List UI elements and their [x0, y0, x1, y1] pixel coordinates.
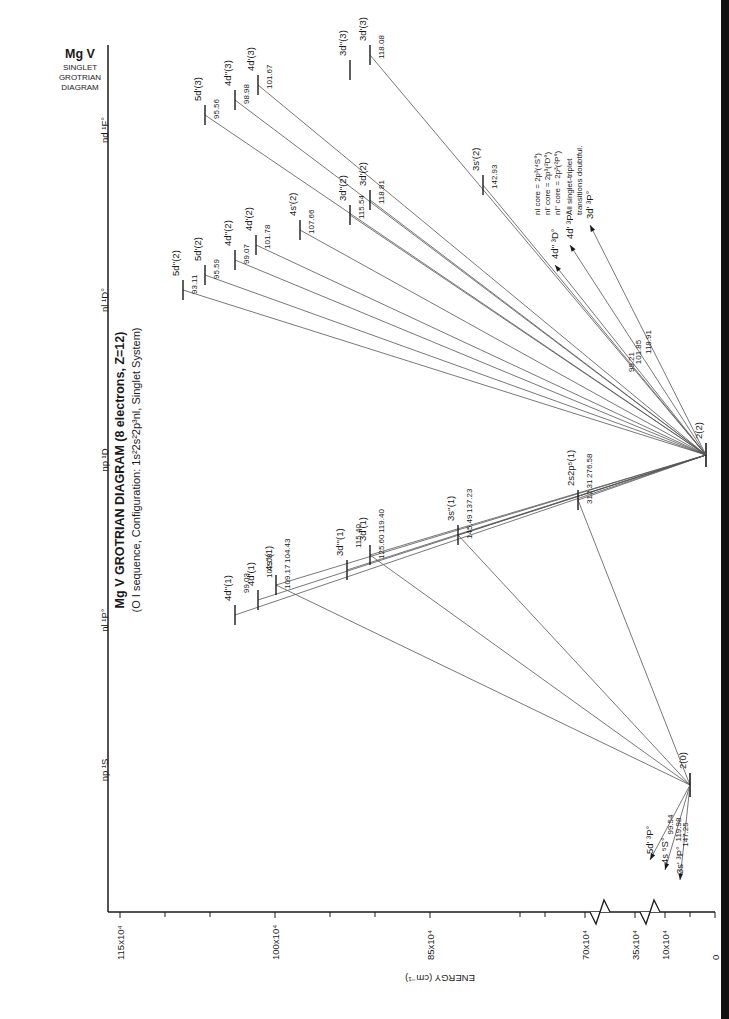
note-core3: nl'' core = 2p³(²P°) [553, 150, 562, 215]
triplet-target-label-group: 3d' ³P° [584, 190, 595, 219]
triplet-wavelength-label-group: 147.25 [681, 822, 690, 847]
energy-level-label: 4d'(2) [243, 207, 254, 231]
triplet-target-label-group: 3s' ³P° [674, 846, 685, 874]
triplet-target-label: 4s ⁵S° [659, 837, 670, 864]
energy-level-label-group: 3s''(1) [445, 496, 456, 521]
energy-level-label: 3d'(3) [357, 17, 368, 41]
corner-line1: SINGLET [63, 63, 97, 72]
wavelength-label: 118.81 [377, 180, 386, 204]
energy-level-label: 5d'(2) [192, 237, 203, 261]
triplet-target-label: 4d'' ³D° [549, 228, 560, 259]
energy-level-label-group: 5d'(2) [192, 237, 203, 261]
column-heading-nlD-group: nl ¹D° [99, 288, 110, 312]
wavelength-label-group: 118.08 [377, 35, 386, 59]
wavelength-label: 145.49 [465, 514, 474, 539]
transition-line [578, 500, 690, 785]
wavelength-label-group: 145.49 [465, 514, 474, 539]
transition-line [370, 455, 706, 555]
wavelength-label: 99.07 [242, 243, 251, 264]
triplet-target-label: 3d' ³P° [584, 190, 595, 219]
wavelength-label-group: 125.60 [377, 534, 386, 559]
transition-line [258, 85, 706, 455]
triplet-wavelength-label-group: 101.85 [634, 339, 643, 364]
note-core2: nl' core = 2p³(²D°) [543, 151, 552, 215]
title-main: Mg V GROTRIAN DIAGRAM (8 electrons, Z=12… [113, 332, 127, 609]
wavelength-label: 98.98 [242, 83, 251, 104]
wavelength-label: 312.31 [585, 479, 594, 504]
energy-tick-label: 10x10⁴ [660, 930, 671, 960]
energy-tick-label-group: 85x10⁴ [425, 930, 436, 960]
wavelength-label: 95.56 [212, 98, 221, 119]
transition-line [205, 115, 706, 455]
wavelength-label-group: 95.56 [212, 98, 221, 119]
note-doubt2: transitions doubtful. [575, 146, 584, 215]
energy-level-label: 3d'(2) [357, 162, 368, 186]
energy-tick-label: 35x10⁴ [630, 930, 641, 960]
energy-level-label-group: 4d'(1) [245, 562, 256, 586]
energy-level-label-group: 3d''(2) [337, 175, 348, 201]
triplet-target-label-group: 4d'' ³D° [549, 228, 560, 259]
arrowhead-icon [555, 265, 561, 272]
energy-level-label: 5d''(2) [170, 250, 181, 276]
title-sub: (O I sequence, Configuration: 1s²2s²2p³n… [130, 328, 142, 613]
energy-level-label-group: 3d'(2) [357, 162, 368, 186]
energy-tick-label: 115x10⁴ [115, 925, 126, 960]
wavelength-label-group: 98.98 [242, 83, 251, 104]
corner-element: Mg V [65, 47, 96, 61]
ground-levels: 2(0)2(2) [677, 422, 706, 797]
wavelength-label: 118.08 [377, 35, 386, 59]
ground-level-label: 2(2) [693, 422, 704, 439]
arrowhead-icon [570, 245, 576, 252]
energy-level-label: 4d'(1) [245, 562, 256, 586]
wavelength-label-group: 99.07 [242, 243, 251, 264]
page-edge [721, 0, 729, 1019]
wavelength-label-group: 101.78 [263, 224, 272, 249]
energy-tick-label-group: 70x10⁴ [580, 930, 591, 960]
wavelength-label: 101.67 [265, 64, 274, 89]
axis-break-icon [590, 900, 610, 924]
triplet-target-label-group: 4s ⁵S° [659, 837, 670, 864]
energy-level-label-group: 3d'(3) [357, 17, 368, 41]
arrowhead-icon [590, 225, 595, 232]
energy-level-label: 3d''(2) [337, 175, 348, 201]
energy-level-label: 5d'(3) [192, 77, 203, 101]
energy-level-label: 4d''(1) [222, 575, 233, 601]
column-heading-ndF: nd ¹F° [99, 117, 110, 143]
energy-level-label: 3s'(2) [470, 148, 481, 171]
wavelength-label-group: 95.59 [212, 258, 221, 279]
column-heading-ndF-group: nd ¹F° [99, 117, 110, 143]
triplet-wavelength-label: 101.85 [634, 339, 643, 364]
column-heading-nlP: nl ¹P° [99, 608, 110, 632]
energy-tick-label-group: 100x10⁴ [270, 925, 281, 960]
ground-level-label: 2(0) [677, 752, 688, 769]
energy-level-label-group: 3d'''(1) [334, 528, 345, 556]
column-heading-npS-group: np ¹S [99, 759, 110, 782]
wavelength-label-group: 142.93 [490, 164, 499, 189]
wavelength-label: 107.66 [307, 209, 316, 234]
energy-level-label-group: 4s'(2) [287, 193, 298, 216]
triplet-wavelength-label: 118.91 [644, 330, 653, 354]
energy-tick-label: 100x10⁴ [270, 925, 281, 960]
energy-level-label: 4d''(3) [222, 60, 233, 86]
wavelength-label: 137.23 [465, 488, 474, 513]
wavelength-label-group: 104.43 [283, 538, 292, 563]
energy-axis-label: ENERGY (cm⁻¹) [405, 973, 475, 984]
column-heading-npD-group: np ¹D [99, 448, 110, 471]
transition-line [483, 185, 706, 455]
column-heading-nlD: nl ¹D° [99, 288, 110, 312]
energy-level-label-group: 4d''(3) [222, 60, 233, 86]
title-block: Mg V GROTRIAN DIAGRAM (8 electrons, Z=12… [113, 328, 142, 613]
wavelength-label-group: 118.81 [377, 180, 386, 204]
core-notes: nl core = 2p³(⁴S°) nl' core = 2p³(²D°) n… [533, 150, 562, 215]
energy-level-label-group: 2s2p⁵(1) [565, 450, 576, 486]
triplet-target-label: 3s' ³P° [674, 846, 685, 874]
energy-level-label: 4d''(2) [222, 220, 233, 246]
column-heading-nlP-group: nl ¹P° [99, 608, 110, 632]
wavelength-label-group: 93.11 [190, 274, 199, 294]
wavelength-label: 109.17 [283, 564, 292, 589]
energy-level-label: 3d''(3) [337, 30, 348, 56]
energy-tick-label-group: 0 [710, 955, 721, 960]
transition-line [578, 455, 706, 500]
wavelength-label: 93.11 [190, 274, 199, 294]
wavelength-label-group: 115.54 [357, 195, 366, 219]
